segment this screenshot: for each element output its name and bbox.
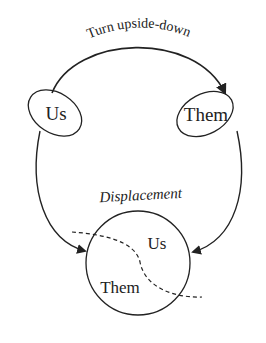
them-label: Them	[184, 104, 229, 125]
circle-us-label: Us	[148, 234, 167, 253]
displacement-label: Displacement	[98, 185, 183, 205]
displacement-circle	[86, 211, 190, 315]
them-node: Them	[169, 82, 241, 145]
turn-upside-down-label: Turn upside-down	[85, 15, 193, 41]
turn-upside-down-arrow	[52, 48, 225, 93]
circle-them-label: Them	[100, 278, 140, 297]
right-arrow-to-circle	[193, 131, 242, 252]
displacement-diagram: Turn upside-down Us Them Displacement Us…	[0, 0, 266, 343]
us-label: Us	[45, 103, 66, 124]
left-arrow-to-circle	[36, 131, 85, 251]
us-node: Us	[20, 80, 90, 145]
